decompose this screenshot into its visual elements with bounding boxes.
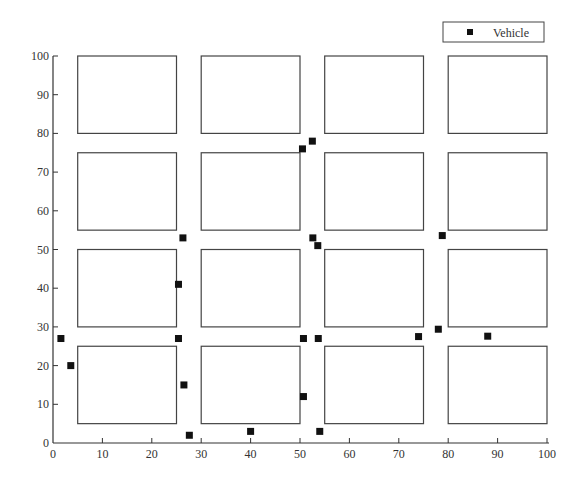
y-tick-label: 20 [37,359,49,373]
y-tick-label: 30 [37,320,49,334]
city-block [78,346,177,423]
vehicle-square-marker-icon [435,326,442,333]
vehicle-square-marker-icon [309,234,316,241]
y-tick-label: 70 [37,165,49,179]
x-axis-ticks: 0102030405060708090100 [50,438,556,461]
legend-label-vehicle: Vehicle [493,26,529,40]
y-tick-label: 100 [31,49,49,63]
x-tick-label: 70 [393,447,405,461]
city-block [325,153,424,230]
x-tick-label: 20 [146,447,158,461]
vehicle-square-marker-icon [316,428,323,435]
x-tick-label: 10 [96,447,108,461]
vehicle-square-marker-icon [484,333,491,340]
y-tick-label: 0 [43,436,49,450]
vehicle-square-marker-icon [179,234,186,241]
vehicle-square-marker-icon [175,281,182,288]
city-block [448,56,547,133]
city-block [78,56,177,133]
x-tick-label: 80 [442,447,454,461]
y-tick-label: 80 [37,126,49,140]
city-block [201,153,300,230]
city-block [448,250,547,327]
city-block [325,250,424,327]
legend: Vehicle [443,22,544,42]
axes: 0102030405060708090100 01020304050607080… [31,49,556,461]
vehicle-square-marker-icon [67,362,74,369]
vehicle-square-marker-icon [300,393,307,400]
city-block [325,56,424,133]
vehicle-square-marker-icon [439,232,446,239]
vehicle-points [57,138,491,439]
city-block [78,153,177,230]
x-tick-label: 60 [343,447,355,461]
city-block [201,56,300,133]
y-axis-ticks: 0102030405060708090100 [31,49,58,450]
x-tick-label: 0 [50,447,56,461]
y-tick-label: 40 [37,281,49,295]
vehicle-square-marker-icon [300,335,307,342]
vehicle-square-marker-icon [247,428,254,435]
vehicle-square-marker-icon [309,138,316,145]
y-tick-label: 10 [37,397,49,411]
vehicle-square-marker-icon [175,335,182,342]
legend-square-marker-icon [467,29,473,35]
x-tick-label: 40 [245,447,257,461]
city-block [78,250,177,327]
vehicle-square-marker-icon [314,242,321,249]
city-block [201,346,300,423]
vehicle-square-marker-icon [299,145,306,152]
x-tick-label: 90 [492,447,504,461]
x-tick-label: 100 [538,447,556,461]
vehicle-square-marker-icon [186,432,193,439]
vehicle-square-marker-icon [57,335,64,342]
city-block [448,346,547,423]
vehicle-square-marker-icon [315,335,322,342]
y-tick-label: 50 [37,243,49,257]
city-block [201,250,300,327]
city-block [325,346,424,423]
vehicle-square-marker-icon [415,333,422,340]
scatter-chart: 0102030405060708090100 01020304050607080… [0,0,581,496]
x-tick-label: 30 [195,447,207,461]
vehicle-square-marker-icon [180,381,187,388]
city-block [448,153,547,230]
y-tick-label: 60 [37,204,49,218]
y-tick-label: 90 [37,88,49,102]
x-tick-label: 50 [294,447,306,461]
